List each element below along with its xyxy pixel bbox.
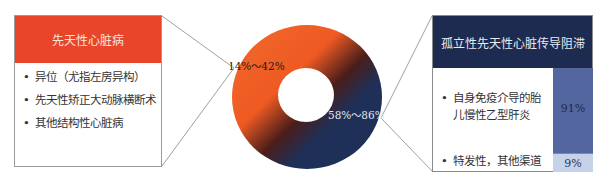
donut-hole — [278, 68, 334, 122]
segment-label-isolated: 58%～86% — [328, 109, 384, 121]
list-item: 其他结构性心脏病 — [23, 116, 159, 131]
list-item: 先天性矫正大动脉横断术 — [23, 93, 159, 108]
left-panel-list: 异位（尤指左房异构） 先天性矫正大动脉横断术 其他结构性心脏病 — [23, 70, 159, 139]
list-item: 异位（尤指左房异构） — [23, 70, 159, 85]
right-panel-item-autoimmune: 自身免疫介导的胎儿慢性乙型肝炎 — [441, 90, 551, 124]
congenital-heart-disease-panel: 先天性心脏病 异位（尤指左房异构） 先天性矫正大动脉横断术 其他结构性心脏病 — [14, 15, 162, 167]
segment-label-chd: 14%～42% — [230, 60, 285, 72]
right-panel-title: 孤立性先天性心脏传导阻滞 — [433, 16, 592, 68]
percent-91-cell: 91% — [553, 68, 593, 153]
left-panel-title: 先天性心脏病 — [15, 16, 161, 63]
percent-9-cell: 9% — [553, 153, 593, 172]
donut-chart: 14%～42% 58%～86% — [230, 23, 384, 171]
right-panel-item-idiopathic: 特发性，其他渠道 — [441, 153, 553, 170]
isolated-chb-panel: 孤立性先天性心脏传导阻滞 自身免疫介导的胎儿慢性乙型肝炎 特发性，其他渠道 91… — [432, 15, 593, 172]
